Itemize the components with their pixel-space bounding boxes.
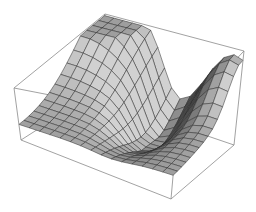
box-edge xyxy=(14,88,21,140)
surface-mesh xyxy=(19,16,243,176)
surface-plot xyxy=(0,0,256,212)
